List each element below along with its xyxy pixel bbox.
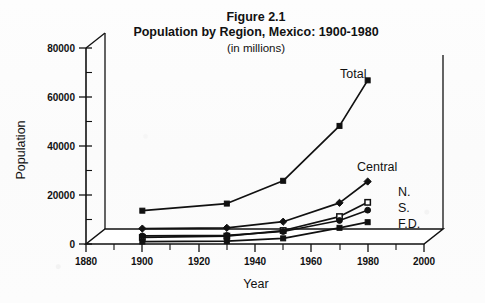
y-tick-label-40000: 40000 <box>47 141 75 152</box>
series-label-south: S. <box>398 201 410 215</box>
series-line <box>142 80 367 210</box>
x-tick-label-1920: 1920 <box>188 256 211 267</box>
x-tick-label-1940: 1940 <box>244 256 267 267</box>
y-axis-top-depth-line <box>86 33 105 48</box>
data-point-marker <box>140 208 145 213</box>
data-point-marker <box>337 225 342 230</box>
data-point-marker <box>280 218 287 225</box>
data-point-marker <box>280 229 286 235</box>
data-point-marker <box>365 220 370 225</box>
data-point-marker <box>140 239 145 244</box>
figure-subtitle: (in millions) <box>227 42 285 54</box>
figure-title-line1: Figure 2.1 <box>226 10 285 24</box>
data-point-marker <box>365 200 370 205</box>
x-axis-title: Year <box>243 277 268 291</box>
series-label-north: N. <box>398 185 411 199</box>
y-axis-title: Population <box>14 120 28 179</box>
population-line-chart: Figure 2.1 Population by Region, Mexico:… <box>0 0 485 303</box>
data-point-marker <box>224 239 229 244</box>
x-tick-label-2000: 2000 <box>413 256 436 267</box>
figure-container: Figure 2.1 Population by Region, Mexico:… <box>0 0 485 303</box>
data-point-marker <box>224 201 229 206</box>
y-tick-label-80000: 80000 <box>47 43 75 54</box>
figure-title-line2: Population by Region, Mexico: 1900-1980 <box>133 25 378 39</box>
data-series-layer <box>139 78 372 244</box>
data-point-marker <box>139 233 145 239</box>
y-tick-label-0: 0 <box>69 239 75 250</box>
data-point-marker <box>337 218 343 224</box>
data-point-marker <box>337 123 342 128</box>
series-label-central: Central <box>357 160 397 174</box>
data-point-marker <box>281 178 286 183</box>
series-label-total: Total <box>340 67 366 81</box>
x-tick-label-1980: 1980 <box>357 256 380 267</box>
x-tick-label-1880: 1880 <box>75 256 98 267</box>
y-tick-label-60000: 60000 <box>47 92 75 103</box>
series-central <box>139 178 372 232</box>
series-label-fd: F.D. <box>398 217 420 231</box>
x-axis-ticks <box>86 244 424 252</box>
x-tick-label-1960: 1960 <box>300 256 323 267</box>
series-total <box>140 78 370 213</box>
data-point-marker <box>281 236 286 241</box>
y-tick-label-20000: 20000 <box>47 190 75 201</box>
data-point-marker <box>224 233 230 239</box>
x-tick-label-1900: 1900 <box>131 256 154 267</box>
data-point-marker <box>365 207 371 213</box>
